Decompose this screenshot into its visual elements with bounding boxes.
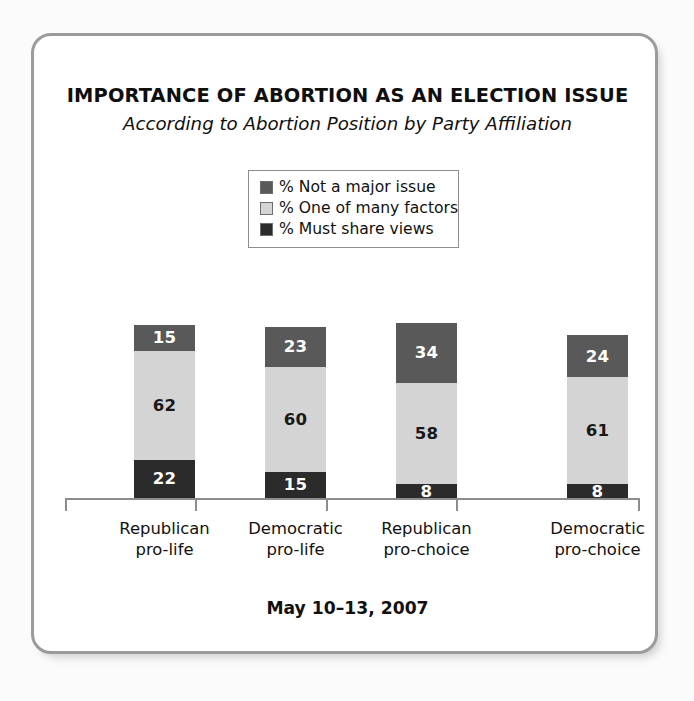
bar-segment[interactable]: 23 [265, 327, 326, 367]
bar-segment[interactable]: 15 [134, 325, 195, 351]
category-label-line: Republican [95, 518, 235, 539]
bar-segment[interactable]: 24 [567, 335, 628, 377]
figure-frame: IMPORTANCE OF ABORTION AS AN ELECTION IS… [31, 33, 658, 654]
bar-value-label: 61 [586, 421, 610, 440]
stacked-bar[interactable]: 24618 [567, 335, 628, 498]
category-label-line: Democratic [528, 518, 668, 539]
bar-segment[interactable]: 58 [396, 383, 457, 485]
bar-segment[interactable]: 61 [567, 377, 628, 484]
bar-segment[interactable]: 8 [396, 484, 457, 498]
category-label: Republicanpro-life [95, 518, 235, 560]
axis-tick [195, 500, 197, 511]
bar-value-label: 24 [586, 347, 610, 366]
bar-value-label: 15 [153, 328, 177, 347]
bar-value-label: 8 [592, 482, 604, 501]
category-label-line: pro-choice [357, 539, 497, 560]
category-label-line: pro-life [95, 539, 235, 560]
category-label: Republicanpro-choice [357, 518, 497, 560]
bar-segment[interactable]: 34 [396, 323, 457, 383]
bar-value-label: 22 [153, 469, 177, 488]
bar-segment[interactable]: 15 [265, 472, 326, 498]
bar-value-label: 23 [284, 337, 308, 356]
bar-value-label: 15 [284, 475, 308, 494]
stacked-bar[interactable]: 156222 [134, 325, 195, 498]
bar-segment[interactable]: 8 [567, 484, 628, 498]
bar-value-label: 58 [415, 424, 439, 443]
bar-value-label: 60 [284, 410, 308, 429]
axis-tick [326, 500, 328, 511]
bar-segment[interactable]: 62 [134, 351, 195, 460]
bar-segment[interactable]: 60 [265, 367, 326, 472]
x-axis-line [65, 498, 640, 500]
category-label-line: Republican [357, 518, 497, 539]
category-label-line: Democratic [226, 518, 366, 539]
category-label: Democraticpro-choice [528, 518, 668, 560]
axis-tick [65, 500, 67, 511]
category-label-line: pro-choice [528, 539, 668, 560]
axis-tick [456, 500, 458, 511]
bar-segment[interactable]: 22 [134, 460, 195, 499]
category-label-line: pro-life [226, 539, 366, 560]
bar-value-label: 62 [153, 396, 177, 415]
survey-date-note: May 10–13, 2007 [34, 598, 661, 618]
category-label: Democraticpro-life [226, 518, 366, 560]
stacked-bar[interactable]: 34588 [396, 323, 457, 498]
bar-value-label: 8 [421, 482, 433, 501]
plot-area: 1562222360153458824618 Republicanpro-lif… [34, 36, 661, 657]
axis-tick [638, 500, 640, 511]
bar-value-label: 34 [415, 343, 439, 362]
stacked-bar[interactable]: 236015 [265, 327, 326, 499]
